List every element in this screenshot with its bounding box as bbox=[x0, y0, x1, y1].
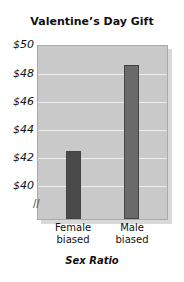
gridline bbox=[38, 74, 167, 75]
y-tick-44: $44 bbox=[2, 123, 34, 136]
x-label-line: biased bbox=[107, 234, 157, 246]
plot-area bbox=[37, 45, 168, 220]
gridline bbox=[38, 130, 167, 131]
x-label-female: Female biased bbox=[48, 222, 98, 246]
y-tick-42: $42 bbox=[2, 151, 34, 164]
chart-title: Valentine’s Day Gift bbox=[0, 15, 184, 28]
x-label-line: Male bbox=[107, 222, 157, 234]
y-tick-48: $48 bbox=[2, 67, 34, 80]
bar-male-biased bbox=[124, 65, 139, 219]
x-label-male: Male biased bbox=[107, 222, 157, 246]
x-axis-title: Sex Ratio bbox=[0, 255, 184, 266]
gridline bbox=[38, 158, 167, 159]
x-label-line: Female bbox=[48, 222, 98, 234]
y-tick-40: $40 bbox=[2, 179, 34, 192]
axis-break-icon: // bbox=[33, 198, 40, 209]
bar-female-biased bbox=[66, 151, 81, 219]
y-tick-50: $50 bbox=[2, 38, 34, 51]
gridline bbox=[38, 186, 167, 187]
gridline bbox=[38, 102, 167, 103]
y-tick-46: $46 bbox=[2, 95, 34, 108]
x-label-line: biased bbox=[48, 234, 98, 246]
